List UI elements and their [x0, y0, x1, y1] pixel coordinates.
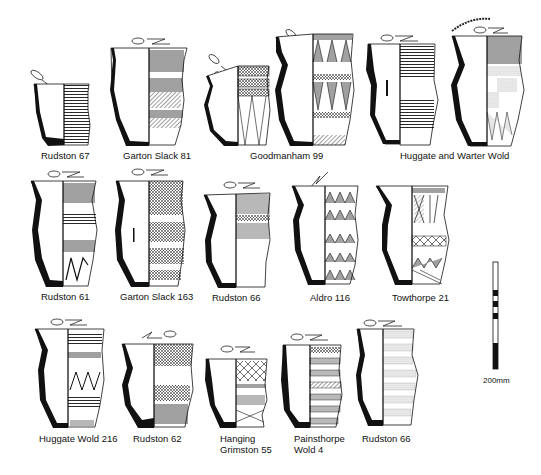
grave-goods-icon [51, 319, 87, 325]
label-goodmanham-99: Goodmanham 99 [250, 150, 323, 161]
label-garton-slack-163: Garton Slack 163 [120, 291, 193, 302]
vessel-garton-slack-81 [110, 38, 187, 146]
label-rudston-66-a: Rudston 66 [212, 292, 261, 303]
grave-goods-icon [364, 320, 402, 326]
grave-goods-icon [132, 169, 168, 175]
vessel-rudston-66-b [356, 320, 418, 426]
bone-object-icon [386, 80, 388, 96]
label-painsthorpe-wold-4-line1: Painsthorpe [294, 433, 345, 444]
grave-goods-icon [474, 27, 508, 33]
bone-object-icon [133, 228, 135, 242]
label-hanging-grimston-55-line1: Hanging [220, 433, 255, 444]
label-huggate-and-warter-wold: Huggate and Warter Wold [400, 150, 509, 161]
label-rudston-66-b: Rudston 66 [362, 433, 411, 444]
label-towthorpe-21: Towthorpe 21 [392, 292, 449, 303]
label-hanging-grimston-55-line2: Grimston 55 [220, 444, 272, 455]
beaker-figure [0, 0, 541, 475]
vessel-hanging-grimston-55 [205, 346, 267, 428]
vessel-aldro-116 [292, 172, 358, 285]
grave-goods-icon [142, 331, 176, 338]
vessel-garton-slack-163 [115, 169, 185, 287]
grave-goods-icon [224, 182, 260, 188]
label-garton-slack-81: Garton Slack 81 [123, 150, 191, 161]
label-rudston-67: Rudston 67 [41, 150, 90, 161]
vessel-towthorpe-21 [376, 186, 449, 285]
grave-goods-icon [291, 334, 328, 340]
vessel-goodmanham-small [204, 53, 270, 146]
scale-bar-label: 200mm [483, 376, 510, 385]
grave-goods-icon [221, 346, 255, 352]
label-aldro-116: Aldro 116 [310, 292, 350, 303]
label-huggate-wold-216: Huggate Wold 216 [39, 433, 118, 444]
arc-ornament-icon [452, 19, 490, 31]
scale-bar [493, 262, 498, 369]
vessel-painsthorpe-wold-4 [281, 334, 342, 428]
grave-goods-icon [381, 35, 418, 41]
label-rudston-62: Rudston 62 [133, 433, 182, 444]
label-rudston-61: Rudston 61 [41, 291, 90, 302]
vessel-rudston-67 [30, 69, 90, 146]
vessel-huggate-warter-right [451, 19, 524, 146]
grave-goods-icon [48, 171, 84, 177]
label-painsthorpe-wold-4-line2: Wold 4 [294, 444, 323, 455]
vessel-goodmanham-99 [275, 28, 354, 146]
grave-goods-icon [132, 38, 170, 44]
vessel-rudston-66-a [204, 182, 270, 288]
vessel-rudston-62 [122, 331, 193, 428]
vessel-huggate-warter-left [366, 35, 438, 145]
vessel-huggate-wold-216 [35, 319, 104, 428]
vessel-rudston-61 [31, 171, 97, 287]
